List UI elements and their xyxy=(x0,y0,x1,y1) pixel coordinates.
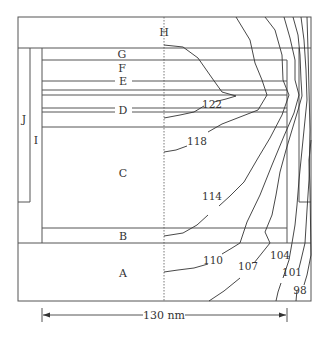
region-label-J: J xyxy=(21,113,26,126)
region-label-F: F xyxy=(118,62,126,75)
contour-label-114: 114 xyxy=(202,190,222,202)
device-cross-section-diagram: H G F E D C B A I J 122 118 114 110 107 … xyxy=(0,0,328,339)
region-label-B: B xyxy=(119,230,127,243)
region-label-A: A xyxy=(118,267,128,280)
contour-label-104: 104 xyxy=(270,249,290,261)
contour-label-107: 107 xyxy=(238,260,258,272)
contour-label-122: 122 xyxy=(202,98,222,110)
contour-label-98: 98 xyxy=(293,284,306,296)
region-label-C: C xyxy=(119,167,127,180)
region-label-G: G xyxy=(118,48,127,61)
contour-label-118: 118 xyxy=(187,135,207,147)
contour-label-110: 110 xyxy=(203,254,223,266)
region-label-D: D xyxy=(119,104,128,117)
region-label-E: E xyxy=(119,75,127,88)
contour-label-101: 101 xyxy=(282,266,302,278)
region-label-I: I xyxy=(34,134,38,147)
region-label-H: H xyxy=(159,26,169,39)
dimension-label: 130 nm xyxy=(143,309,186,322)
